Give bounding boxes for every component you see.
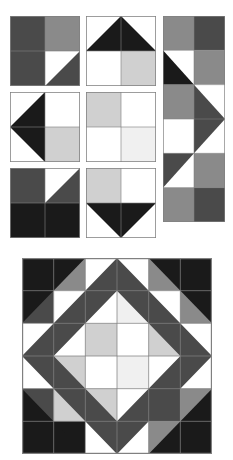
quilt-block-5 <box>86 92 156 162</box>
four-patch-light-canvas <box>86 92 156 162</box>
black-base-with-white-triangle-canvas <box>10 168 80 238</box>
quilt-pattern-figure <box>0 0 233 460</box>
quilt-block-6 <box>10 168 80 238</box>
black-arrow-pointing-left-canvas <box>10 92 80 162</box>
tall-arrow-column-canvas <box>163 16 225 222</box>
assembled-quilt-canvas <box>22 258 212 454</box>
quilt-block-4 <box>10 92 80 162</box>
assembled-quilt-top <box>22 258 212 454</box>
dark-corner-with-white-triangle-canvas <box>10 16 80 86</box>
quilt-block-1 <box>10 16 80 86</box>
quilt-block-2 <box>86 16 156 86</box>
quilt-block-3 <box>163 16 225 222</box>
black-peak-triangle-up-canvas <box>86 16 156 86</box>
black-triangle-down-canvas <box>86 168 156 238</box>
quilt-block-7 <box>86 168 156 238</box>
